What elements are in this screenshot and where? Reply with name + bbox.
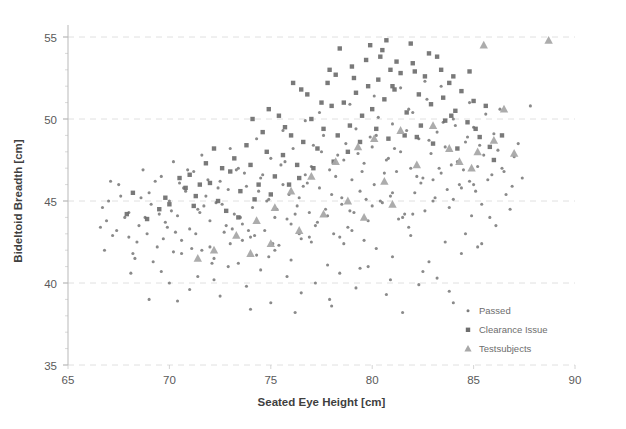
data-point-dot	[444, 240, 447, 243]
data-point-dot	[196, 275, 199, 278]
data-point-square	[364, 58, 368, 62]
data-point-dot	[229, 147, 232, 150]
data-point-dot	[154, 180, 157, 183]
data-point-dot	[352, 211, 355, 214]
data-point-dot	[397, 217, 400, 220]
y-tick-label: 35	[44, 360, 57, 372]
data-point-dot	[427, 139, 430, 142]
data-point-dot	[269, 157, 272, 160]
data-point-dot	[496, 149, 499, 152]
data-point-dot	[186, 168, 189, 171]
data-point-dot	[363, 162, 366, 165]
data-point-dot	[265, 199, 268, 202]
data-point-square	[415, 135, 419, 139]
data-point-square	[265, 150, 269, 154]
data-point-square	[198, 182, 202, 186]
data-point-square	[336, 133, 340, 137]
data-point-square	[473, 127, 477, 131]
data-point-dot	[269, 301, 272, 304]
data-point-dot	[415, 175, 418, 178]
data-point-square	[333, 73, 337, 77]
data-point-square	[492, 158, 496, 162]
data-point-dot	[448, 206, 451, 209]
data-point-dot	[156, 245, 159, 248]
data-point-square	[451, 74, 455, 78]
data-point-dot	[255, 254, 258, 257]
data-point-square	[157, 207, 161, 211]
data-point-dot	[241, 222, 244, 225]
data-point-square	[194, 194, 198, 198]
data-point-dot	[105, 219, 108, 222]
data-point-dot	[148, 298, 151, 301]
data-point-square	[427, 51, 431, 55]
data-point-dot	[377, 116, 380, 119]
data-point-dot	[389, 278, 392, 281]
data-point-dot	[427, 260, 430, 263]
data-point-dot	[458, 183, 461, 186]
data-point-square	[232, 156, 236, 160]
data-point-dot	[454, 124, 457, 127]
data-point-dot	[180, 239, 183, 242]
data-point-dot	[251, 206, 254, 209]
data-point-dot	[391, 191, 394, 194]
data-point-dot	[480, 242, 483, 245]
data-point-square	[443, 118, 447, 122]
data-point-square	[441, 95, 445, 99]
data-point-dot	[221, 203, 224, 206]
data-point-dot	[296, 204, 299, 207]
data-point-dot	[367, 265, 370, 268]
data-point-dot	[529, 104, 532, 107]
data-point-dot	[129, 272, 132, 275]
data-point-square	[390, 84, 394, 88]
data-point-square	[145, 217, 149, 221]
data-point-square	[435, 54, 439, 58]
data-point-dot	[365, 198, 368, 201]
data-point-dot	[314, 281, 317, 284]
data-point-square	[244, 143, 248, 147]
legend-label-passed: Passed	[479, 305, 511, 316]
data-point-square	[342, 100, 346, 104]
data-point-square	[354, 91, 358, 95]
data-point-dot	[448, 290, 451, 293]
data-point-dot	[233, 213, 236, 216]
data-point-dot	[391, 122, 394, 125]
data-point-square	[250, 117, 254, 121]
y-tick-label: 40	[44, 278, 57, 290]
data-point-dot	[119, 195, 122, 198]
x-tick-label: 85	[467, 374, 480, 386]
data-point-dot	[330, 193, 333, 196]
data-point-dot	[468, 180, 471, 183]
data-point-dot	[468, 101, 471, 104]
data-point-square	[125, 212, 129, 216]
data-point-dot	[419, 181, 422, 184]
data-point-square	[289, 133, 293, 137]
data-point-dot	[103, 249, 106, 252]
data-point-dot	[285, 275, 288, 278]
data-point-dot	[273, 249, 276, 252]
data-point-square	[423, 74, 427, 78]
data-point-dot	[500, 167, 503, 170]
data-point-square	[299, 87, 303, 91]
data-point-square	[248, 163, 252, 167]
data-point-dot	[162, 237, 165, 240]
data-point-dot	[429, 152, 432, 155]
data-point-dot	[202, 204, 205, 207]
data-point-dot	[342, 242, 345, 245]
data-point-dot	[178, 181, 181, 184]
data-point-dot	[425, 98, 428, 101]
data-point-dot	[247, 229, 250, 232]
data-point-dot	[438, 167, 441, 170]
data-point-dot	[298, 196, 301, 199]
data-point-dot	[310, 240, 313, 243]
data-point-dot	[517, 142, 520, 145]
data-point-dot	[235, 168, 238, 171]
data-point-dot	[141, 168, 144, 171]
data-point-dot	[348, 209, 351, 212]
data-point-dot	[403, 213, 406, 216]
data-point-dot	[172, 250, 175, 253]
data-point-dot	[117, 183, 120, 186]
data-point-dot	[460, 186, 463, 189]
data-point-dot	[356, 152, 359, 155]
data-point-dot	[139, 196, 142, 199]
data-point-dot	[452, 301, 455, 304]
